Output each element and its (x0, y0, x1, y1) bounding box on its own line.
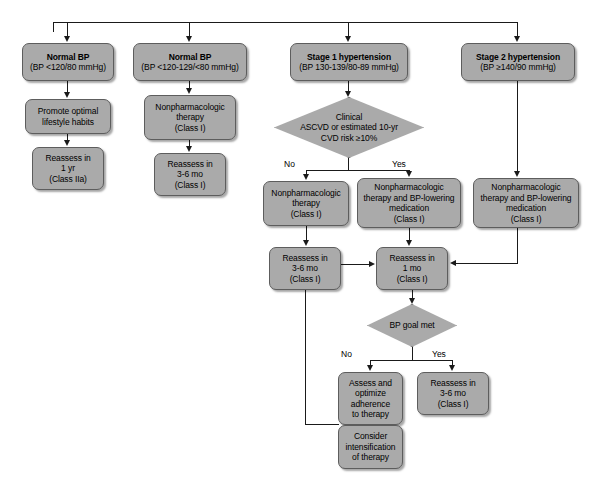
connector-bus-to-stage-2 (517, 22, 518, 37)
node-bp-goal-line-0: BP goal met (389, 320, 434, 331)
node-nonpharm-elevated-line-1: therapy (176, 112, 204, 123)
node-nonpharm-yes-line-2: medication (389, 203, 429, 214)
node-stage-1-line-1: (BP 130-139/80-89 mmHg) (299, 62, 399, 73)
node-reassess-3-6mo-stage1-line-0: Reassess in (282, 253, 327, 264)
node-assess-optimize-adherence[interactable]: Assess and optimize adherence to therapy (338, 372, 403, 425)
arrow-nonpharm-yes-to-reassess-1mo (406, 240, 412, 246)
node-clinical-ascvd-risk[interactable]: Clinical ASCVD or estimated 10-yr CVD ri… (274, 97, 424, 158)
edge-label-goal-no: No (341, 349, 352, 359)
node-ascvd-line-1: ASCVD or estimated 10-yr (300, 122, 398, 133)
edge-label-risk-no: No (284, 159, 295, 169)
arrow-bus-to-stage-1 (345, 36, 351, 42)
node-normal-bp[interactable]: Normal BP (BP <120/80 mmHg) (22, 43, 114, 81)
node-nonpharm-therapy-elevated[interactable]: Nonpharmacologic therapy (Class I) (144, 95, 236, 140)
node-stage-2-hypertension[interactable]: Stage 2 hypertension (BP ≥140/90 mmHg) (461, 43, 575, 81)
node-nonpharm-bp-lowering-stage-2[interactable]: Nonpharmacologic therapy and BP-lowering… (473, 178, 579, 228)
node-nonpharm-stage2-line-3: (Class I) (511, 214, 542, 225)
node-assess-adherence-line-1: optimize (355, 388, 386, 399)
node-reassess-3-6mo-goal-line-2: (Class I) (438, 399, 469, 410)
connector-stage-2-to-treatment (517, 81, 518, 172)
node-nonpharm-bp-lowering-yes-branch[interactable]: Nonpharmacologic therapy and BP-lowering… (357, 178, 461, 228)
node-nonpharm-yes-line-1: therapy and BP-lowering (364, 193, 455, 204)
node-reassess-3-6mo-goal-line-1: 3-6 mo (440, 388, 466, 399)
connector-reassess-3-6mo-to-1mo (341, 264, 370, 265)
node-reassess-3-6mo-stage1-line-2: (Class I) (290, 274, 321, 285)
arrow-risk-yes (406, 171, 412, 177)
edge-label-risk-yes: Yes (392, 159, 406, 169)
node-consider-intensification-line-2: of therapy (352, 452, 389, 463)
top-bus-left-cap (53, 22, 54, 32)
diamond-text-ascvd: Clinical ASCVD or estimated 10-yr CVD ri… (274, 97, 424, 158)
node-elevated-bp[interactable]: Normal BP (BP <120-129/<80 mmHg) (133, 43, 247, 81)
connector-bus-to-normal-bp (67, 22, 68, 37)
node-consider-intensification-line-1: intensification (345, 442, 395, 453)
node-reassess-3-6mo-goal-line-0: Reassess in (430, 378, 475, 389)
node-consider-intensification-line-0: Consider (354, 431, 387, 442)
flowchart-canvas: No Yes No Yes Normal BP (BP <120/80 mmHg… (0, 0, 597, 488)
node-reassess-1yr-line-2: (Class IIa) (49, 174, 87, 185)
connector-nonpharm-no-to-reassess (306, 226, 307, 241)
arrow-elevated-bp-to-nonpharm (186, 88, 192, 94)
node-reassess-3-6mo-goal-met[interactable]: Reassess in 3-6 mo (Class I) (417, 372, 489, 415)
node-reassess-1mo-line-1: 1 mo (403, 263, 422, 274)
node-promote-lifestyle-line-0: Promote optimal (38, 106, 98, 117)
connector-bus-to-stage-1 (348, 22, 349, 37)
connector-stage2-treatment-down (517, 228, 518, 264)
node-ascvd-line-0: Clinical (336, 112, 363, 123)
node-reassess-1mo[interactable]: Reassess in 1 mo (Class I) (376, 247, 448, 290)
node-normal-bp-line-1: (BP <120/80 mmHg) (30, 62, 106, 73)
arrow-lifestyle-to-reassess-1yr (64, 140, 70, 146)
node-nonpharm-stage2-line-0: Nonpharmacologic (491, 182, 560, 193)
arrow-goal-no (367, 365, 373, 371)
node-elevated-bp-line-1: (BP <120-129/<80 mmHg) (141, 62, 238, 73)
arrow-goal-yes (449, 365, 455, 371)
node-stage-2-line-0: Stage 2 hypertension (476, 52, 560, 63)
node-reassess-1yr-line-0: Reassess in (45, 153, 90, 164)
arrow-normal-bp-to-lifestyle (64, 92, 70, 98)
arrow-nonpharm-to-reassess-3-6mo (186, 146, 192, 152)
node-consider-intensification[interactable]: Consider intensification of therapy (338, 425, 403, 469)
node-reassess-1yr[interactable]: Reassess in 1 yr (Class IIa) (32, 147, 104, 190)
connector-goal-exit (412, 347, 413, 361)
node-bp-goal-met[interactable]: BP goal met (367, 304, 457, 347)
node-reassess-3-6mo-stage-1[interactable]: Reassess in 3-6 mo (Class I) (269, 247, 341, 290)
node-reassess-1mo-line-0: Reassess in (389, 253, 434, 264)
node-reassess-3-6mo-elevated-line-1: 3-6 mo (177, 169, 203, 180)
arrow-risk-no (303, 174, 309, 180)
node-nonpharm-stage2-line-1: therapy and BP-lowering (481, 193, 572, 204)
node-nonpharm-stage2-line-2: medication (506, 203, 546, 214)
feedback-loop-bottom-segment (305, 424, 339, 425)
top-bus-horizontal-line (53, 22, 518, 23)
node-ascvd-line-2: CVD risk ≥10% (321, 133, 377, 144)
arrow-bus-to-normal-bp (64, 36, 70, 42)
node-nonpharm-therapy-no-branch[interactable]: Nonpharmacologic therapy (Class I) (263, 181, 349, 226)
node-assess-adherence-line-0: Assess and (349, 378, 392, 389)
connector-stage2-treatment-left (456, 263, 518, 264)
risk-split-bus (306, 170, 410, 171)
node-promote-lifestyle-line-1: lifestyle habits (42, 117, 94, 128)
node-nonpharm-yes-line-0: Nonpharmacologic (374, 182, 443, 193)
diamond-text-bp-goal: BP goal met (367, 304, 457, 347)
goal-split-bus (370, 360, 453, 361)
node-nonpharm-no-line-0: Nonpharmacologic (271, 188, 340, 199)
arrow-bus-to-stage-2 (514, 36, 520, 42)
node-assess-adherence-line-3: to therapy (352, 409, 389, 420)
connector-bus-to-elevated-bp (189, 22, 190, 37)
node-stage-1-hypertension[interactable]: Stage 1 hypertension (BP 130-139/80-89 m… (290, 43, 408, 81)
node-reassess-1mo-line-2: (Class I) (397, 274, 428, 285)
arrow-reassess-3-6mo-to-1mo (369, 261, 375, 267)
node-reassess-3-6mo-elevated-line-2: (Class I) (175, 180, 206, 191)
node-stage-2-line-1: (BP ≥140/90 mmHg) (480, 62, 556, 73)
arrow-bus-to-elevated-bp (186, 36, 192, 42)
arrow-nonpharm-no-to-reassess (303, 240, 309, 246)
edge-label-goal-yes: Yes (432, 349, 446, 359)
node-reassess-3-6mo-elevated[interactable]: Reassess in 3-6 mo (Class I) (154, 153, 226, 196)
node-stage-1-line-0: Stage 1 hypertension (307, 52, 391, 63)
node-nonpharm-no-line-2: (Class I) (291, 209, 322, 220)
node-reassess-1yr-line-1: 1 yr (61, 163, 75, 174)
node-reassess-3-6mo-stage1-line-1: 3-6 mo (292, 263, 318, 274)
node-assess-adherence-line-2: adherence (351, 399, 390, 410)
node-normal-bp-line-0: Normal BP (47, 52, 90, 63)
node-elevated-bp-line-0: Normal BP (169, 52, 212, 63)
node-promote-lifestyle[interactable]: Promote optimal lifestyle habits (25, 99, 111, 134)
